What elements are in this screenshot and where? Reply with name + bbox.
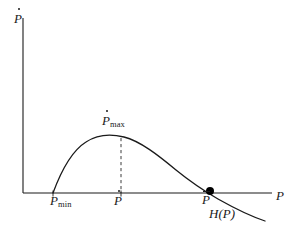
p-bar-label: P bbox=[202, 193, 210, 206]
y-axis-label: P bbox=[14, 12, 22, 25]
p-max-base-symbol: P bbox=[102, 114, 110, 127]
p-max-subscript: max bbox=[110, 119, 125, 129]
y-axis-label-symbol: P bbox=[14, 12, 22, 25]
x-axis-label: P bbox=[276, 189, 284, 202]
p-star-symbol: P bbox=[114, 194, 122, 207]
p-star-label: P bbox=[114, 194, 122, 207]
p-min-subscript: min bbox=[58, 199, 72, 209]
curve-label-text: H(P) bbox=[209, 206, 235, 221]
x-axis-label-symbol: P bbox=[276, 188, 284, 203]
p-bar-symbol: P bbox=[202, 193, 210, 206]
p-max-label: Pmax bbox=[102, 114, 125, 129]
curve-label: H(P) bbox=[209, 207, 235, 220]
plot-area bbox=[0, 0, 297, 230]
p-min-label: Pmin bbox=[50, 194, 71, 209]
figure-container: P P Pmax Pmin P P H(P) bbox=[0, 0, 297, 230]
p-min-base-symbol: P bbox=[50, 193, 58, 208]
